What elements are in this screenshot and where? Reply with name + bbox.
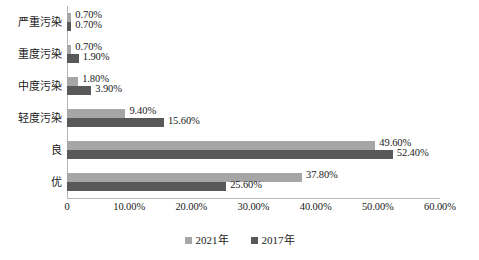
y-axis-label-重度污染: 重度污染 — [0, 48, 62, 60]
bar-2017-良 — [67, 150, 393, 159]
legend-swatch-icon — [185, 237, 192, 244]
bar-value-label: 0.70% — [75, 20, 102, 30]
y-axis-label-中度污染: 中度污染 — [0, 80, 62, 92]
bar-2021-轻度污染 — [67, 109, 125, 118]
bar-value-label: 3.90% — [95, 84, 122, 94]
bar-2017-优 — [67, 182, 226, 191]
bar-2021-中度污染 — [67, 77, 78, 86]
x-tick-label: 60.00% — [424, 200, 456, 213]
x-tick-label: 50.00% — [362, 200, 394, 213]
x-tick-label: 0 — [64, 200, 69, 213]
bar-group-良: 49.60%52.40% — [67, 136, 440, 168]
legend-item-2021年[interactable]: 2021年 — [185, 234, 229, 246]
bar-2021-重度污染 — [67, 45, 71, 54]
x-tick-label: 40.00% — [300, 200, 332, 213]
bar-2017-重度污染 — [67, 54, 79, 63]
legend-label: 2017年 — [262, 234, 295, 246]
y-axis-label-轻度污染: 轻度污染 — [0, 112, 62, 124]
x-axis-tick-labels: 010.00%20.00%30.00%40.00%50.00%60.00% — [67, 200, 467, 216]
legend-label: 2021年 — [196, 234, 229, 246]
bar-value-label: 1.90% — [83, 52, 110, 62]
y-axis-label-良: 良 — [0, 144, 62, 156]
y-axis-category-labels: 严重污染重度污染中度污染轻度污染良优 — [0, 6, 62, 198]
x-tick-label: 30.00% — [238, 200, 270, 213]
bar-value-label: 37.80% — [306, 170, 338, 180]
bar-value-label: 15.60% — [168, 116, 200, 126]
x-tick-label: 20.00% — [175, 200, 207, 213]
bar-2021-严重污染 — [67, 13, 71, 22]
bar-group-严重污染: 0.70%0.70% — [67, 8, 440, 40]
bar-2017-严重污染 — [67, 22, 71, 31]
bar-chart: 严重污染重度污染中度污染轻度污染良优 0.70%0.70%0.70%1.90%1… — [0, 0, 479, 260]
y-axis-label-严重污染: 严重污染 — [0, 16, 62, 28]
plot-area: 0.70%0.70%0.70%1.90%1.80%3.90%9.40%15.60… — [67, 6, 440, 198]
bar-2021-良 — [67, 141, 375, 150]
bar-value-label: 52.40% — [397, 148, 429, 158]
legend-item-2017年[interactable]: 2017年 — [251, 234, 295, 246]
y-axis-label-优: 优 — [0, 176, 62, 188]
bar-value-label: 9.40% — [129, 106, 156, 116]
bar-group-优: 37.80%25.60% — [67, 168, 440, 200]
chart-legend: 2021年2017年 — [0, 232, 479, 248]
bar-group-轻度污染: 9.40%15.60% — [67, 104, 440, 136]
bar-value-label: 25.60% — [230, 180, 262, 190]
bar-2017-中度污染 — [67, 86, 91, 95]
bar-group-中度污染: 1.80%3.90% — [67, 72, 440, 104]
bar-2021-优 — [67, 173, 302, 182]
bar-group-重度污染: 0.70%1.90% — [67, 40, 440, 72]
x-tick-label: 10.00% — [113, 200, 145, 213]
bar-2017-轻度污染 — [67, 118, 164, 127]
legend-swatch-icon — [251, 237, 258, 244]
